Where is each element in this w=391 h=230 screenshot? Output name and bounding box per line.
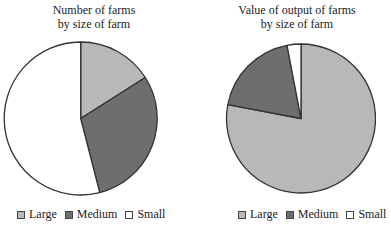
legend-label: Large xyxy=(250,207,278,222)
legend: Large Medium Small xyxy=(17,207,173,222)
legend-swatch-large-icon xyxy=(238,211,246,219)
legend: Large Medium Small xyxy=(238,207,391,222)
pie-chart xyxy=(0,0,188,230)
legend-item-large: Large xyxy=(17,207,57,222)
legend-item-medium: Medium xyxy=(286,207,339,222)
legend-swatch-medium-icon xyxy=(286,211,294,219)
legend-label: Small xyxy=(137,207,165,222)
chart-number-of-farms: Number of farms by size of farm Large Me… xyxy=(0,0,188,230)
legend-item-small: Small xyxy=(125,207,165,222)
legend-label: Medium xyxy=(298,207,339,222)
legend-swatch-medium-icon xyxy=(65,211,73,219)
legend-item-large: Large xyxy=(238,207,278,222)
legend-swatch-small-icon xyxy=(125,211,133,219)
legend-label: Small xyxy=(358,207,386,222)
legend-item-medium: Medium xyxy=(65,207,118,222)
legend-swatch-large-icon xyxy=(17,211,25,219)
pie-chart xyxy=(188,0,376,230)
legend-label: Medium xyxy=(77,207,118,222)
legend-swatch-small-icon xyxy=(346,211,354,219)
legend-item-small: Small xyxy=(346,207,386,222)
legend-label: Large xyxy=(29,207,57,222)
chart-value-of-output: Value of output of farms by size of farm… xyxy=(188,0,376,230)
